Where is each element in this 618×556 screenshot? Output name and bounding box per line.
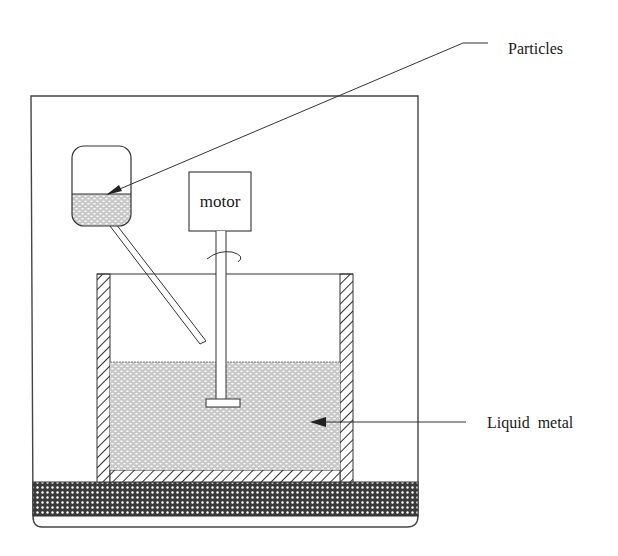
base-plate	[33, 482, 418, 516]
liquid-metal-label: Liquid metal	[487, 414, 574, 432]
particle-hopper	[72, 146, 131, 226]
particles-leader	[106, 43, 488, 195]
stirrer-shaft	[216, 231, 226, 399]
impeller	[206, 399, 240, 407]
motor-label: motor	[200, 192, 241, 211]
feed-tube	[110, 224, 206, 344]
particles-label: Particles	[508, 40, 563, 57]
stir-casting-diagram: motor Particles Liquid metal	[0, 0, 618, 556]
